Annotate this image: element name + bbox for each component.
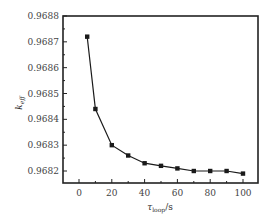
chart: 0.96820.96830.96840.96850.96860.96870.96… xyxy=(0,0,274,222)
data-point-marker xyxy=(110,143,114,147)
x-axis-title: τloop/s xyxy=(147,202,173,214)
data-point-marker xyxy=(159,164,163,168)
y-tick-label: 0.9683 xyxy=(28,140,60,150)
y-tick-label: 0.9687 xyxy=(28,37,60,47)
plot-frame xyxy=(63,16,258,183)
x-tick-label: 80 xyxy=(204,188,216,198)
x-tick-label: 20 xyxy=(106,188,118,198)
y-tick-label: 0.9686 xyxy=(28,63,60,73)
y-tick-label: 0.9684 xyxy=(28,114,60,124)
x-axis: 020406080100 xyxy=(76,179,252,198)
data-series xyxy=(85,34,245,175)
y-tick-label: 0.9682 xyxy=(28,166,60,176)
data-point-marker xyxy=(142,161,146,165)
x-tick-label: 100 xyxy=(234,188,251,198)
data-point-marker xyxy=(126,153,130,157)
x-tick-label: 40 xyxy=(139,188,151,198)
x-tick-label: 0 xyxy=(76,188,82,198)
data-point-marker xyxy=(192,169,196,173)
data-point-marker xyxy=(175,166,179,170)
y-tick-label: 0.9688 xyxy=(28,11,60,21)
data-point-marker xyxy=(85,34,89,38)
y-axis: 0.96820.96830.96840.96850.96860.96870.96… xyxy=(28,11,68,176)
x-tick-label: 60 xyxy=(172,188,184,198)
data-point-marker xyxy=(208,169,212,173)
data-point-marker xyxy=(93,107,97,111)
data-point-marker xyxy=(224,169,228,173)
series-line xyxy=(87,37,243,174)
y-tick-label: 0.9685 xyxy=(28,89,60,99)
y-axis-title: keff xyxy=(14,95,26,110)
data-point-marker xyxy=(241,171,245,175)
